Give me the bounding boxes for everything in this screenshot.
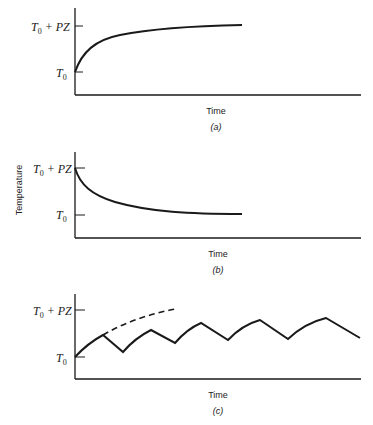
tick-label-t0pz: T0 + PZ	[33, 162, 72, 178]
x-axis-label: Time	[208, 249, 228, 259]
temperature-diagrams: T0 + PZ T0 Time (a) T0 + PZ T0 Time (b) …	[0, 0, 373, 425]
x-axis-label: Time	[208, 390, 228, 400]
x-axis-label: Time	[206, 106, 226, 116]
tick-label-t0pz: T0 + PZ	[33, 304, 72, 320]
tick-label-t0pz: T0 + PZ	[31, 20, 70, 36]
tick-label-t0: T0	[56, 208, 67, 224]
y-axis-label: Temperature	[14, 165, 24, 216]
caption-a: (a)	[211, 122, 222, 132]
tick-label-t0: T0	[56, 351, 67, 367]
panel-c: T0 + PZ T0 Time (c)	[33, 294, 361, 416]
caption-c: (c)	[213, 406, 224, 416]
caption-b: (b)	[213, 265, 224, 275]
panel-b: T0 + PZ T0 Time (b) Temperature	[14, 152, 361, 275]
panel-a: T0 + PZ T0 Time (a)	[31, 8, 361, 132]
tick-label-t0: T0	[56, 66, 67, 82]
